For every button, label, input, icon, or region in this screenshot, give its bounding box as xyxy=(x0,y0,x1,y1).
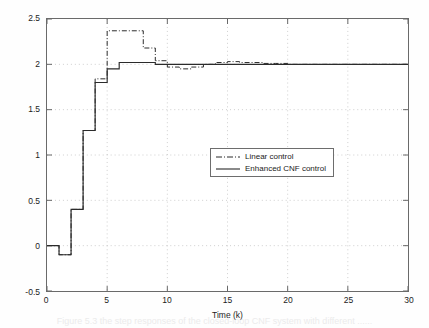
y-tick-1: 0 xyxy=(2,242,40,251)
legend-label-linear-control: Linear control xyxy=(245,152,293,162)
y-tick-5: 2 xyxy=(2,60,40,69)
y-tick-4: 1.5 xyxy=(2,105,40,114)
x-tick-0: 0 xyxy=(31,296,61,305)
y-tick-6: 2.5 xyxy=(2,14,40,23)
legend-key-solid-icon xyxy=(215,164,241,174)
legend-label-enhanced-cnf-control: Enhanced CNF control xyxy=(245,164,326,174)
x-tick-1: 5 xyxy=(92,296,122,305)
page-ghost-caption: Figure 5.3 the step responses of the clo… xyxy=(0,316,429,328)
legend-item-enhanced-cnf-control[interactable]: Enhanced CNF control xyxy=(211,163,333,175)
y-tick-0: -0.5 xyxy=(2,288,40,297)
figure-step-response: -0.500.511.522.5 051015202530 Output res… xyxy=(0,0,429,328)
x-tick-4: 20 xyxy=(273,296,303,305)
legend-key-dash-dot-icon xyxy=(215,152,241,162)
x-tick-6: 30 xyxy=(394,296,424,305)
x-tick-2: 10 xyxy=(152,296,182,305)
x-tick-3: 15 xyxy=(213,296,243,305)
y-tick-2: 0.5 xyxy=(2,197,40,206)
legend[interactable]: Linear control Enhanced CNF control xyxy=(210,148,334,177)
legend-item-linear-control[interactable]: Linear control xyxy=(211,151,333,163)
y-tick-3: 1 xyxy=(2,151,40,160)
x-tick-5: 25 xyxy=(334,296,364,305)
